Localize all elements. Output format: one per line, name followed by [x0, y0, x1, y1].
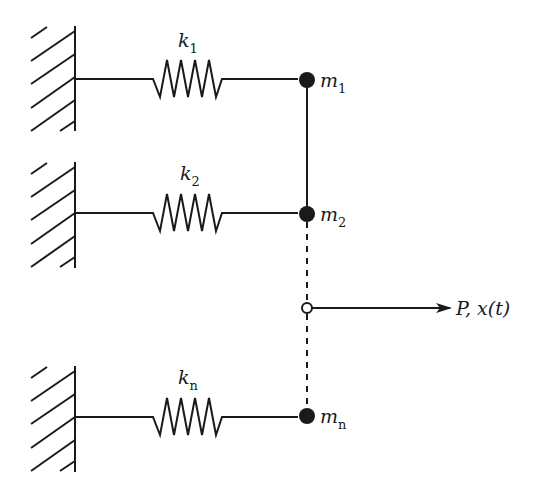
spring-k1-icon: [75, 60, 298, 97]
mass-label-m2: m2: [320, 203, 346, 230]
row-n: kn mn: [31, 366, 347, 472]
spring-label-kn: kn: [178, 366, 199, 393]
load-point-icon: [302, 303, 312, 313]
mass-label-mn: mn: [320, 405, 347, 432]
spring-label-k1: k1: [178, 29, 198, 56]
fixed-wall-1-icon: [31, 26, 75, 131]
row-1: k1 m1: [31, 26, 346, 131]
spring-k2-icon: [75, 194, 298, 231]
mass-mn-icon: [299, 408, 315, 424]
spring-kn-icon: [75, 398, 298, 435]
fixed-wall-n-icon: [31, 366, 75, 472]
fixed-wall-2-icon: [31, 162, 75, 268]
mass-label-m1: m1: [320, 69, 346, 96]
spring-label-k2: k2: [180, 162, 200, 189]
row-2: k2 m2: [31, 162, 346, 268]
spring-mass-diagram: k1 m1 k2 m2: [0, 0, 535, 497]
load-label: P, x(t): [455, 297, 510, 319]
